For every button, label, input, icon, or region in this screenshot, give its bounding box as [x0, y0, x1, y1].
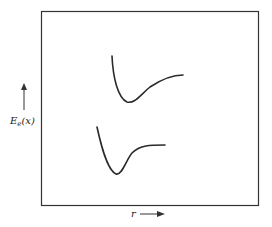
x-axis-label: r [131, 208, 137, 219]
upper-state-curve [112, 56, 183, 102]
potential-energy-diagram: Ee(x) r [0, 0, 272, 227]
y-axis-arrow-icon [21, 83, 27, 110]
plot-frame [42, 12, 259, 206]
x-axis-arrow-icon [140, 211, 165, 217]
y-axis-label: Ee(x) [9, 115, 35, 128]
ground-state-curve [97, 127, 165, 174]
